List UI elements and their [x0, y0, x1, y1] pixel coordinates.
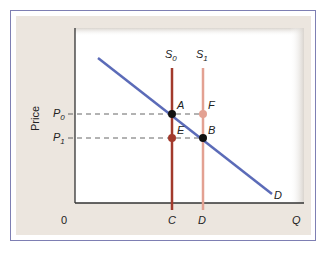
tick-d: D	[198, 214, 206, 226]
plot-area	[75, 28, 304, 203]
origin-label: 0	[61, 214, 67, 226]
label-e: E	[177, 124, 185, 136]
y-axis-label: Price	[29, 106, 41, 131]
point-b	[199, 134, 207, 142]
point-f	[199, 110, 207, 118]
tick-p0: P0	[53, 107, 65, 122]
point-e	[168, 134, 176, 142]
supply-demand-chart: A E F B D S0 S1 P0 P1 C D Q 0 Price	[0, 0, 329, 253]
tick-c: C	[168, 214, 176, 226]
label-a: A	[176, 99, 184, 111]
label-b: B	[208, 124, 215, 136]
point-a	[168, 110, 176, 118]
x-axis-label: Q	[292, 214, 301, 226]
tick-p1: P1	[53, 131, 65, 146]
label-demand: D	[274, 189, 282, 201]
